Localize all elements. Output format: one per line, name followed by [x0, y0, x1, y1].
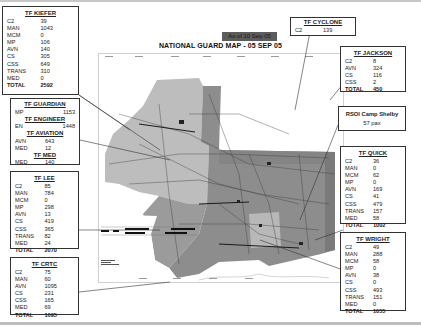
tf-crtc-title: TF CRTC: [15, 260, 74, 268]
table-row: CS116: [345, 72, 401, 79]
row-key: C2: [345, 244, 373, 251]
row-value: 165: [45, 297, 75, 304]
tf-kiefer-box: TF KIEFER C239 MAN1043 MCM0 MP106 AVN140…: [2, 6, 79, 95]
total-row: TOTAL450: [345, 86, 401, 93]
row-value: 13: [45, 211, 75, 218]
row-value: 288: [373, 251, 401, 258]
rsoi-title: RSOI Camp Shelby: [339, 111, 405, 117]
row-key: AVN: [345, 186, 373, 193]
table-row: AVN643: [15, 138, 75, 145]
row-key: MED: [345, 301, 373, 308]
total-label: TOTAL: [15, 312, 45, 319]
row-key: MED: [15, 145, 45, 152]
total-label: TOTAL: [7, 82, 41, 89]
table-row: AVN324: [345, 65, 401, 72]
tf-lee-box: TF LEE C285 MAN784 MCM0 MP298 AVN13 CS41…: [10, 171, 79, 249]
row-key: MAN: [15, 276, 45, 283]
table-row: MAN784: [15, 190, 74, 197]
row-key: AVN: [15, 138, 45, 145]
table-row: MAN0: [345, 165, 401, 172]
table-row: CS41: [345, 193, 401, 200]
table-row: MP298: [15, 204, 74, 211]
row-key: CSS: [15, 226, 45, 233]
map-frame: [98, 53, 344, 283]
table-row: MAN60: [15, 276, 74, 283]
top-divider: [0, 0, 421, 2]
row-key: MED: [15, 240, 45, 247]
row-value: 419: [45, 218, 75, 225]
total-value: 450: [373, 86, 401, 93]
tf-guardian-title: TF GUARDIAN: [15, 101, 75, 109]
row-key: CSS: [345, 287, 373, 294]
table-row: MED0: [7, 75, 74, 82]
row-value: 493: [373, 287, 401, 294]
total-value: 2592: [41, 82, 75, 89]
tf-engineer-title: TF ENGINEER: [15, 116, 75, 124]
row-value: 38: [373, 272, 401, 279]
tf-crtc-box: TF CRTC C275 MAN60 AVN1095 CS231 CSS165 …: [10, 257, 79, 315]
row-key: C2: [295, 27, 323, 34]
rsoi-pax: 57 pax: [339, 120, 405, 126]
row-value: 106: [41, 39, 75, 46]
row-key: CSS: [7, 61, 41, 68]
tf-wright-box: TF WRIGHT C249 MAN288 MCM58 MP0 AVN38 CS…: [340, 232, 406, 311]
row-key: MAN: [15, 190, 45, 197]
row-value: 0: [373, 165, 401, 172]
row-key: MCM: [7, 32, 41, 39]
row-key: CSS: [345, 201, 373, 208]
row-key: MED: [15, 304, 45, 311]
tf-aviation-title: TF AVIATION: [15, 130, 75, 138]
table-row: AVN38: [345, 272, 401, 279]
table-row: MED24: [15, 240, 74, 247]
row-key: C2: [345, 158, 373, 165]
table-row: MED0: [345, 301, 401, 308]
row-key: TRANS: [7, 68, 41, 75]
row-value: 310: [41, 68, 75, 75]
row-value: 41: [373, 193, 401, 200]
total-label: TOTAL: [345, 222, 373, 229]
table-row: C275: [15, 269, 74, 276]
row-value: 157: [373, 208, 401, 215]
row-key: MAN: [345, 165, 373, 172]
row-value: 305: [41, 53, 75, 60]
table-row: CS305: [7, 53, 74, 60]
total-row: TOTAL1055: [345, 308, 401, 315]
total-row: TOTAL2592: [7, 82, 74, 89]
row-value: 649: [41, 61, 75, 68]
table-row: EN1448: [15, 123, 75, 130]
tf-cyclone-box: TF CYCLONE C2139: [290, 17, 356, 36]
row-value: 85: [45, 183, 75, 190]
row-value: 1043: [41, 25, 75, 32]
table-row: AVN169: [345, 186, 401, 193]
row-value: 169: [373, 186, 401, 193]
row-key: TRANS: [345, 294, 373, 301]
total-label: TOTAL: [15, 247, 45, 254]
row-key: CS: [7, 53, 41, 60]
table-row: MED69: [15, 304, 74, 311]
row-value: 139: [323, 27, 351, 34]
row-value: 0: [373, 265, 401, 272]
table-row: MED140: [15, 159, 75, 166]
row-value: 39: [41, 18, 75, 25]
row-key: CS: [345, 72, 373, 79]
table-row: MP0: [345, 179, 401, 186]
table-row: C236: [345, 158, 401, 165]
row-key: AVN: [7, 46, 41, 53]
row-key: MP: [7, 39, 41, 46]
row-value: 1448: [45, 123, 75, 130]
row-key: MCM: [345, 172, 373, 179]
table-row: AVN1095: [15, 283, 74, 290]
row-key: EN: [15, 123, 45, 130]
row-key: MED: [15, 159, 45, 166]
table-row: MP1153: [15, 109, 75, 116]
tf-jackson-title: TF JACKSON: [345, 49, 401, 57]
tf-wright-title: TF WRIGHT: [345, 235, 401, 243]
tf-cyclone-title: TF CYCLONE: [295, 19, 351, 26]
row-value: 82: [45, 233, 75, 240]
tf-quick-box: TF QUICK C236 MAN0 MCM62 MP0 AVN169 CS41…: [340, 146, 406, 224]
row-key: MED: [345, 215, 373, 222]
table-row: MAN288: [345, 251, 401, 258]
row-key: MP: [15, 204, 45, 211]
row-value: 49: [373, 244, 401, 251]
tf-kiefer-title: TF KIEFER: [7, 9, 74, 17]
